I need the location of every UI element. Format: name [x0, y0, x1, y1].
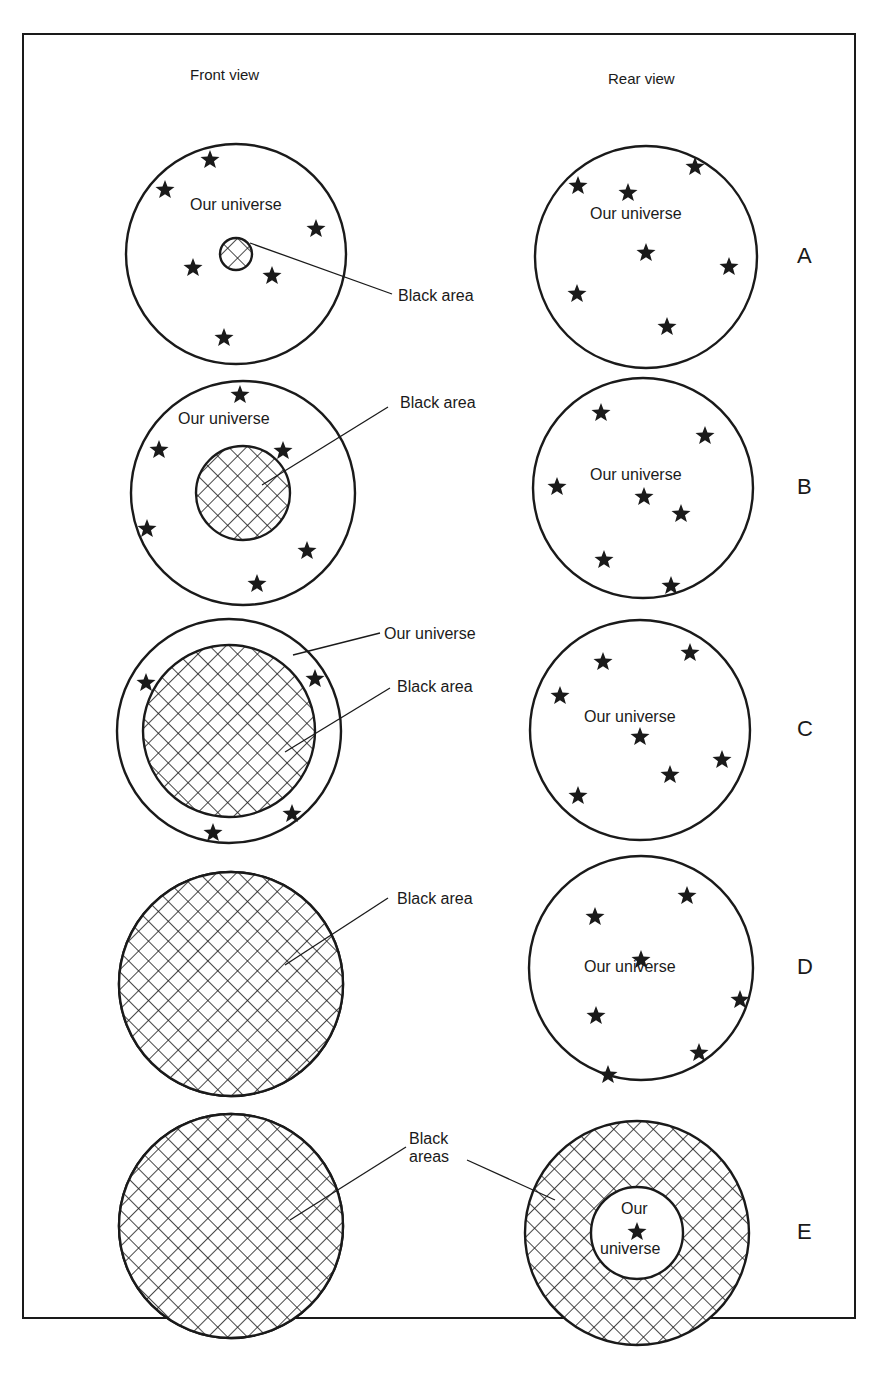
row-c-rear-label: Our universe — [584, 708, 676, 726]
row-a-front-label: Our universe — [190, 196, 282, 214]
row-letter-c: C — [797, 716, 813, 742]
row-b-rear-label: Our universe — [590, 466, 682, 484]
row-d-rear-label: Our universe — [584, 958, 676, 976]
row-e-rear-label: Our — [621, 1200, 648, 1218]
row-c-front-leader-line — [293, 633, 380, 655]
row-letter-b: B — [797, 474, 812, 500]
row-e-front-label: Blackareas — [409, 1130, 449, 1166]
row-c-front-black-area — [143, 645, 315, 817]
row-letter-e: E — [797, 1219, 812, 1245]
row-a-rear-label: Our universe — [590, 205, 682, 223]
row-a-front-label: Black area — [398, 287, 474, 305]
row-b-front-label: Black area — [400, 394, 476, 412]
row-d-front-label: Black area — [397, 890, 473, 908]
row-b-front-label: Our universe — [178, 410, 270, 428]
column-header-front: Front view — [190, 66, 259, 83]
column-header-rear: Rear view — [608, 70, 675, 87]
row-e-front-black-area — [119, 1114, 343, 1338]
row-letter-a: A — [797, 243, 812, 269]
row-b-front-black-area — [196, 446, 290, 540]
row-b-rear-universe-circle — [533, 378, 753, 598]
row-e-rear-label: universe — [600, 1240, 660, 1258]
row-c-front-label: Our universe — [384, 625, 476, 643]
row-letter-d: D — [797, 954, 813, 980]
row-c-front-label: Black area — [397, 678, 473, 696]
row-a-front-black-area — [220, 238, 252, 270]
row-d-front-black-area — [119, 872, 343, 1096]
